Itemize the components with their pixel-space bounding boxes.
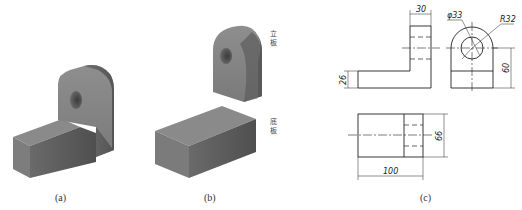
dim-26: 26 [339,75,348,85]
isometric-bracket-assembled: 30 φ33 R32 26 60 66 100 [0,0,522,210]
dim-phi33: φ33 [447,11,462,20]
label-upright-plate: 立板 [268,30,278,48]
caption-a: (a) [55,192,66,203]
front-view [344,10,440,88]
side-view [446,20,515,93]
upright-plate-b [213,26,262,102]
orthographic-drawing [344,10,515,180]
dim-30: 30 [416,5,426,14]
dim-60: 60 [502,63,511,73]
base-plate-b [155,106,256,178]
dim-r32: R32 [500,15,516,24]
label-base-plate: 底板 [268,118,278,136]
caption-b: (b) [204,192,216,203]
dim-66: 66 [435,131,444,141]
base-plate-a [13,119,96,178]
caption-c: (c) [420,192,431,203]
dim-100: 100 [383,167,398,176]
